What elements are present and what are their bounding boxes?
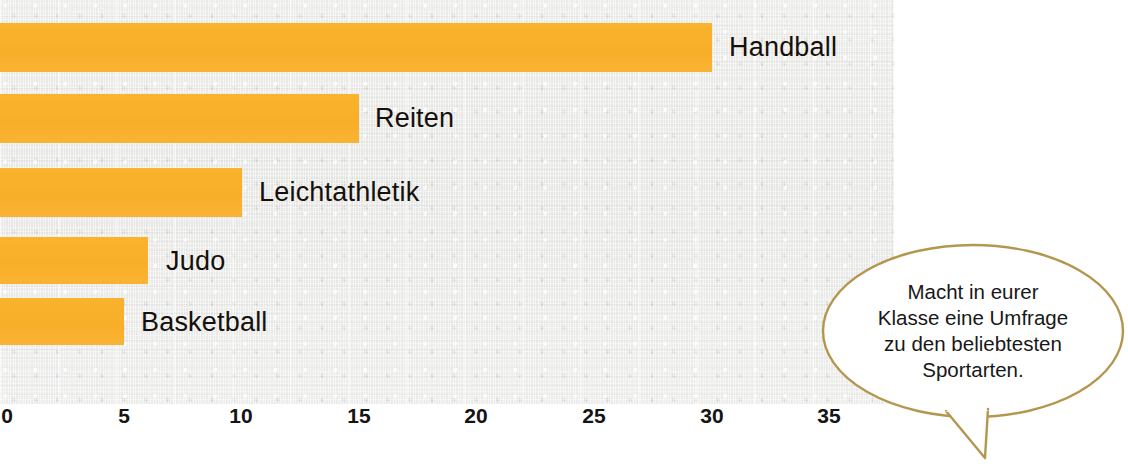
chart-canvas: Handball Reiten Leichtathletik Judo Bask…	[0, 0, 1128, 464]
speech-bubble-line-1: Macht in eurer	[907, 279, 1038, 305]
x-tick-10: 10	[229, 404, 252, 428]
bar-label-judo: Judo	[166, 248, 225, 275]
speech-bubble-line-3: zu den beliebtesten	[884, 331, 1062, 357]
bar-label-reiten: Reiten	[375, 105, 454, 132]
x-tick-25: 25	[582, 404, 605, 428]
speech-bubble-line-2: Klasse eine Umfrage	[878, 305, 1068, 331]
x-tick-30: 30	[700, 404, 723, 428]
bar-label-handball: Handball	[729, 34, 837, 61]
speech-bubble-text: Macht in eurer Klasse eine Umfrage zu de…	[820, 243, 1126, 419]
bar-label-leichtathletik: Leichtathletik	[259, 179, 419, 206]
bar-judo	[0, 237, 148, 284]
bar-reiten	[0, 94, 359, 143]
speech-bubble-line-4: Sportarten.	[922, 357, 1023, 383]
x-axis: 0 5 10 15 20 25 30 35	[0, 404, 894, 444]
x-tick-20: 20	[464, 404, 487, 428]
x-tick-5: 5	[118, 404, 130, 428]
x-tick-15: 15	[347, 404, 370, 428]
speech-bubble-annotation: Macht in eurer Klasse eine Umfrage zu de…	[820, 243, 1126, 423]
bar-leichtathletik	[0, 168, 242, 217]
bar-label-basketball: Basketball	[141, 309, 268, 336]
bar-handball	[0, 23, 712, 72]
bar-basketball	[0, 298, 124, 345]
x-tick-0: 0	[1, 404, 13, 428]
